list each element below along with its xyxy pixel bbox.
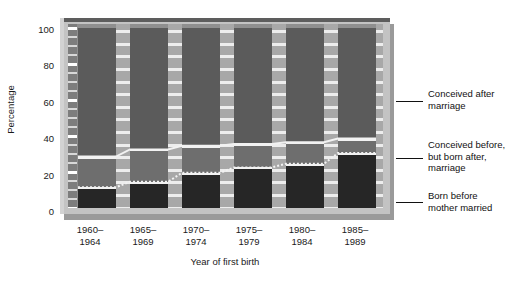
chart-figure: Percentage 100 80 60 40 20 0 1960– 1964 … xyxy=(0,0,522,289)
legend-label-born-before-mother-married: Born before mother married xyxy=(428,190,522,213)
bar-column[interactable] xyxy=(338,24,376,208)
segment-divider xyxy=(130,182,168,184)
bar-column[interactable] xyxy=(286,24,324,208)
gap-rung xyxy=(376,106,383,109)
gap-rung xyxy=(376,131,383,134)
y-tick-mark xyxy=(68,162,77,164)
segment-conceived-after-marriage[interactable] xyxy=(130,28,168,150)
segment-born-before-mother-married[interactable] xyxy=(78,188,116,208)
bar-column[interactable] xyxy=(130,24,168,208)
plot-frame xyxy=(60,18,390,214)
gap-rung xyxy=(116,144,130,147)
segment-conceived-after-marriage[interactable] xyxy=(338,28,376,140)
gap-rung xyxy=(272,30,286,33)
gap-rung xyxy=(324,194,338,197)
gap-rung xyxy=(168,181,182,184)
gap-rung xyxy=(168,144,182,147)
gap-rung xyxy=(220,93,234,96)
y-tick-mark xyxy=(68,135,77,138)
y-tick-mark xyxy=(68,63,77,66)
gap-rung xyxy=(324,81,338,84)
segment-conceived-before-born-after[interactable] xyxy=(182,147,220,174)
gap-rung xyxy=(376,169,383,172)
x-tick-label-1-line1: 1965– xyxy=(115,224,171,236)
bar-column[interactable] xyxy=(182,24,220,208)
gap-rung xyxy=(116,68,130,71)
gap-rung xyxy=(220,181,234,184)
gap-rung xyxy=(324,106,338,109)
gap-rung xyxy=(272,43,286,46)
gap-rung xyxy=(376,156,383,159)
gap-rung xyxy=(220,131,234,134)
gap-rung xyxy=(272,118,286,121)
segment-conceived-before-born-after[interactable] xyxy=(234,145,272,168)
gap-rung xyxy=(272,144,286,147)
bar-column[interactable] xyxy=(234,24,272,208)
gap-rung xyxy=(168,106,182,109)
bar-gap-strip xyxy=(116,24,130,208)
x-tick-label-3: 1975– 1979 xyxy=(221,224,277,247)
segment-conceived-before-born-after[interactable] xyxy=(338,140,376,154)
gap-rung xyxy=(168,81,182,84)
segment-conceived-after-marriage[interactable] xyxy=(78,28,116,158)
bar-gap-strip xyxy=(324,24,338,208)
gap-rung xyxy=(272,131,286,134)
gap-rung xyxy=(272,93,286,96)
x-tick-label-4-line2: 1984 xyxy=(274,236,330,248)
gap-rung xyxy=(220,194,234,197)
bar-gap-strip xyxy=(376,24,383,208)
gap-rung xyxy=(116,207,130,209)
gap-rung xyxy=(220,68,234,71)
gap-rung xyxy=(324,169,338,172)
segment-conceived-after-marriage[interactable] xyxy=(234,28,272,145)
segment-conceived-after-marriage[interactable] xyxy=(286,28,324,143)
x-tick-label-2-line2: 1974 xyxy=(168,236,224,248)
segment-conceived-before-born-after[interactable] xyxy=(78,158,116,189)
bar-column[interactable] xyxy=(78,24,116,208)
segment-divider xyxy=(182,173,220,175)
gap-rung xyxy=(324,55,338,58)
segment-divider xyxy=(182,146,220,148)
x-tick-label-5-line1: 1985– xyxy=(327,224,383,236)
segment-born-before-mother-married[interactable] xyxy=(130,183,168,208)
segment-born-before-mother-married[interactable] xyxy=(234,168,272,208)
gap-rung xyxy=(376,118,383,121)
y-tick-mark xyxy=(68,180,77,182)
segment-born-before-mother-married[interactable] xyxy=(182,174,220,208)
segment-conceived-before-born-after[interactable] xyxy=(286,143,324,165)
legend-label-1-line3: marriage xyxy=(428,162,522,174)
x-tick-label-0: 1960– 1964 xyxy=(62,224,118,247)
gap-rung xyxy=(220,81,234,84)
gap-rung xyxy=(324,181,338,184)
gap-rung xyxy=(220,156,234,159)
x-tick-label-1-line2: 1969 xyxy=(115,236,171,248)
legend-label-2-line1: Born before xyxy=(428,190,522,202)
gap-rung xyxy=(220,55,234,58)
gap-rung xyxy=(272,194,286,197)
segment-born-before-mother-married[interactable] xyxy=(286,165,324,208)
legend-label-1-line2: but born after, xyxy=(428,151,522,163)
segment-divider xyxy=(286,164,324,166)
gap-rung xyxy=(116,194,130,197)
y-tick-mark xyxy=(68,198,77,200)
gap-rung xyxy=(272,106,286,109)
gap-rung xyxy=(116,43,130,46)
gap-rung xyxy=(168,43,182,46)
gap-rung xyxy=(272,55,286,58)
frame-top-bevel xyxy=(60,18,390,22)
segment-born-before-mother-married[interactable] xyxy=(338,154,376,208)
y-tick-mark xyxy=(68,36,77,38)
bar-gap-strip xyxy=(168,24,182,208)
legend-leader-line-conceived-before-born-after xyxy=(396,158,423,159)
x-tick-label-2-line1: 1970– xyxy=(168,224,224,236)
segment-conceived-before-born-after[interactable] xyxy=(130,150,168,182)
gap-rung xyxy=(324,30,338,33)
gap-rung xyxy=(272,68,286,71)
gap-rung xyxy=(376,68,383,71)
y-tick-label-20: 20 xyxy=(28,171,54,181)
frame-left-bevel xyxy=(60,18,64,214)
gap-rung xyxy=(116,55,130,58)
legend-label-0-line1: Conceived after xyxy=(428,88,522,100)
segment-divider xyxy=(338,139,376,141)
segment-conceived-after-marriage[interactable] xyxy=(182,28,220,147)
